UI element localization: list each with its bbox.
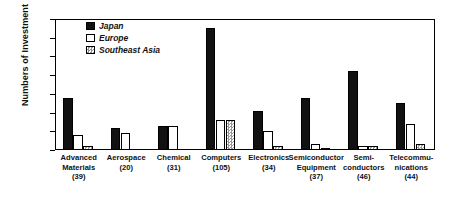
bar <box>83 146 93 150</box>
bar <box>368 146 378 150</box>
bar <box>111 128 121 150</box>
bar <box>226 120 236 150</box>
legend-item-label: Japan <box>99 21 124 31</box>
legend-swatch-icon <box>86 22 95 30</box>
bar <box>216 120 226 150</box>
legend-item: Europe <box>86 32 160 43</box>
bar <box>311 144 321 150</box>
chart-legend: JapanEuropeSoutheast Asia <box>84 18 162 58</box>
bar <box>406 124 416 150</box>
bar <box>396 103 406 150</box>
bar <box>253 111 263 150</box>
legend-item: Japan <box>86 20 160 31</box>
y-axis-title: Numbers of Investment <box>20 0 30 130</box>
bar-group <box>396 19 426 150</box>
legend-swatch-icon <box>86 46 95 54</box>
bar <box>321 148 331 150</box>
bar <box>158 126 168 150</box>
bar <box>73 135 83 150</box>
legend-item-label: Europe <box>99 33 128 43</box>
bar <box>121 133 131 150</box>
legend-item: Southeast Asia <box>86 44 160 55</box>
bar <box>273 146 283 150</box>
bar-group <box>206 19 236 150</box>
bar <box>358 146 368 150</box>
bar-group <box>348 19 378 150</box>
bar-group <box>158 19 188 150</box>
x-axis-label: Telecommu-nications(44) <box>382 153 442 182</box>
bar <box>63 98 73 150</box>
bar <box>263 131 273 150</box>
bar <box>348 71 358 150</box>
legend-swatch-icon <box>86 34 95 42</box>
bar <box>301 98 311 150</box>
legend-item-label: Southeast Asia <box>99 45 160 55</box>
bar <box>168 126 178 150</box>
bar <box>206 28 216 150</box>
bar-group <box>301 19 331 150</box>
bar <box>416 144 426 150</box>
investment-bar-chart: Numbers of Investment 010203040506070 Ja… <box>0 0 450 201</box>
bar-group <box>253 19 283 150</box>
y-tick-0 <box>50 150 55 151</box>
